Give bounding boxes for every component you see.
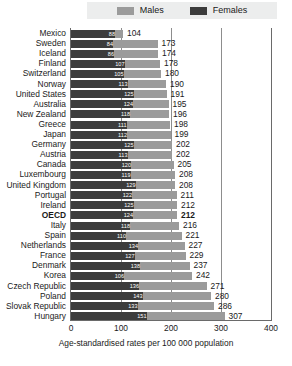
bar-females-value: 86 xyxy=(71,50,115,58)
chart-row: Greece111198 xyxy=(0,119,292,129)
row-label: New Zealand xyxy=(0,109,66,119)
row-label: Hungary xyxy=(0,311,66,321)
bar-females-value: 106 xyxy=(71,272,125,280)
chart-row: Switzerland105180 xyxy=(0,68,292,78)
chart-legend: MalesFemales xyxy=(87,2,277,19)
bar-group: 120 xyxy=(71,161,174,169)
bar-females-value: 133 xyxy=(71,302,139,310)
bar-group: 129 xyxy=(71,181,175,189)
chart-row: Netherlands134227 xyxy=(0,240,292,250)
legend-males-swatch-icon xyxy=(117,7,134,15)
row-label: United States xyxy=(0,89,66,99)
row-value-label: 180 xyxy=(165,68,179,78)
row-label: Australia xyxy=(0,99,66,109)
bar-group: 127 xyxy=(71,252,186,260)
chart-row: Sweden84173 xyxy=(0,38,292,48)
row-label: Portugal xyxy=(0,190,66,200)
row-value-label: 271 xyxy=(211,281,225,291)
chart-row: Korea106242 xyxy=(0,270,292,280)
bar-group: 118 xyxy=(71,110,169,118)
row-value-label: 221 xyxy=(186,230,200,240)
bar-group: 143 xyxy=(71,292,211,300)
row-label: Greece xyxy=(0,119,66,129)
bar-group: 107 xyxy=(71,60,160,68)
bar-group: 124 xyxy=(71,211,177,219)
bar-females-value: 125 xyxy=(71,201,135,209)
bar-group: 134 xyxy=(71,242,185,250)
bar-group: 113 xyxy=(71,151,172,159)
x-tick-200: 200 xyxy=(164,322,178,334)
row-label: Switzerland xyxy=(0,68,66,78)
row-value-label: 227 xyxy=(189,240,203,250)
bar-females-value: 124 xyxy=(71,211,134,219)
x-tick-300: 300 xyxy=(214,322,228,334)
row-value-label: 196 xyxy=(173,109,187,119)
bar-group: 124 xyxy=(71,100,169,108)
legend-males-label: Males xyxy=(140,6,164,15)
bar-females-value: 105 xyxy=(71,70,125,78)
row-value-label: 178 xyxy=(164,58,178,68)
row-value-label: 198 xyxy=(174,119,188,129)
bar-females-value: 113 xyxy=(71,80,129,88)
legend-females: Females xyxy=(190,6,248,15)
chart-row: Italy118216 xyxy=(0,220,292,230)
bar-females-value: 119 xyxy=(71,171,132,179)
bar-females-value: 134 xyxy=(71,242,139,250)
row-value-label: 212 xyxy=(181,210,195,220)
row-label: Finland xyxy=(0,58,66,68)
bar-group: 110 xyxy=(71,232,182,240)
bar-females-value: 118 xyxy=(71,222,131,230)
bar-group: 113 xyxy=(71,80,166,88)
chart-row: United Kingdom129208 xyxy=(0,180,292,190)
bar-group: 122 xyxy=(71,191,177,199)
row-label: Denmark xyxy=(0,260,66,270)
bar-females-value: 88 xyxy=(71,30,116,38)
chart-row: Mexico88104 xyxy=(0,28,292,38)
row-label: Luxembourg xyxy=(0,169,66,179)
chart-row: Austria113202 xyxy=(0,149,292,159)
bar-group: 88 xyxy=(71,30,123,38)
bar-group: 112 xyxy=(71,131,171,139)
chart-row: Poland143280 xyxy=(0,291,292,301)
row-value-label: 237 xyxy=(194,260,208,270)
row-value-label: 229 xyxy=(190,250,204,260)
bar-group: 119 xyxy=(71,171,175,179)
x-tick-100: 100 xyxy=(114,322,128,334)
chart-row: Denmark138237 xyxy=(0,260,292,270)
legend-females-swatch-icon xyxy=(190,7,207,15)
chart-row: Norway113190 xyxy=(0,79,292,89)
chart-row: Luxembourg119208 xyxy=(0,169,292,179)
x-tick-0: 0 xyxy=(69,322,74,334)
bar-females-value: 113 xyxy=(71,151,129,159)
legend-males: Males xyxy=(117,6,164,15)
bar-females-value: 125 xyxy=(71,141,135,149)
bar-females-value: 122 xyxy=(71,191,133,199)
row-value-label: 195 xyxy=(173,99,187,109)
row-label: Slovak Republic xyxy=(0,301,66,311)
row-label: OECD xyxy=(0,210,66,220)
row-value-label: 190 xyxy=(170,79,184,89)
row-value-label: 205 xyxy=(178,159,192,169)
legend-females-label: Females xyxy=(213,6,248,15)
chart-row: United States125191 xyxy=(0,89,292,99)
row-label: Canada xyxy=(0,159,66,169)
x-axis-label: Age-standardised rates per 100 000 popul… xyxy=(0,338,292,348)
chart-row: Hungary151307 xyxy=(0,311,292,321)
bar-females-value: 136 xyxy=(71,282,140,290)
row-value-label: 280 xyxy=(215,291,229,301)
row-value-label: 211 xyxy=(181,190,194,200)
chart-row: New Zealand118196 xyxy=(0,109,292,119)
bar-females-value: 127 xyxy=(71,252,136,260)
row-value-label: 174 xyxy=(162,48,176,58)
bar-group: 125 xyxy=(71,201,177,209)
row-value-label: 208 xyxy=(179,180,193,190)
bar-females-value: 110 xyxy=(71,232,127,240)
row-value-label: 216 xyxy=(183,220,197,230)
bar-group: 111 xyxy=(71,121,170,129)
chart-row: Canada120205 xyxy=(0,159,292,169)
chart-row: OECD124212 xyxy=(0,210,292,220)
bar-group: 118 xyxy=(71,222,179,230)
row-label: Iceland xyxy=(0,48,66,58)
chart-row: Japan112199 xyxy=(0,129,292,139)
row-label: Korea xyxy=(0,270,66,280)
